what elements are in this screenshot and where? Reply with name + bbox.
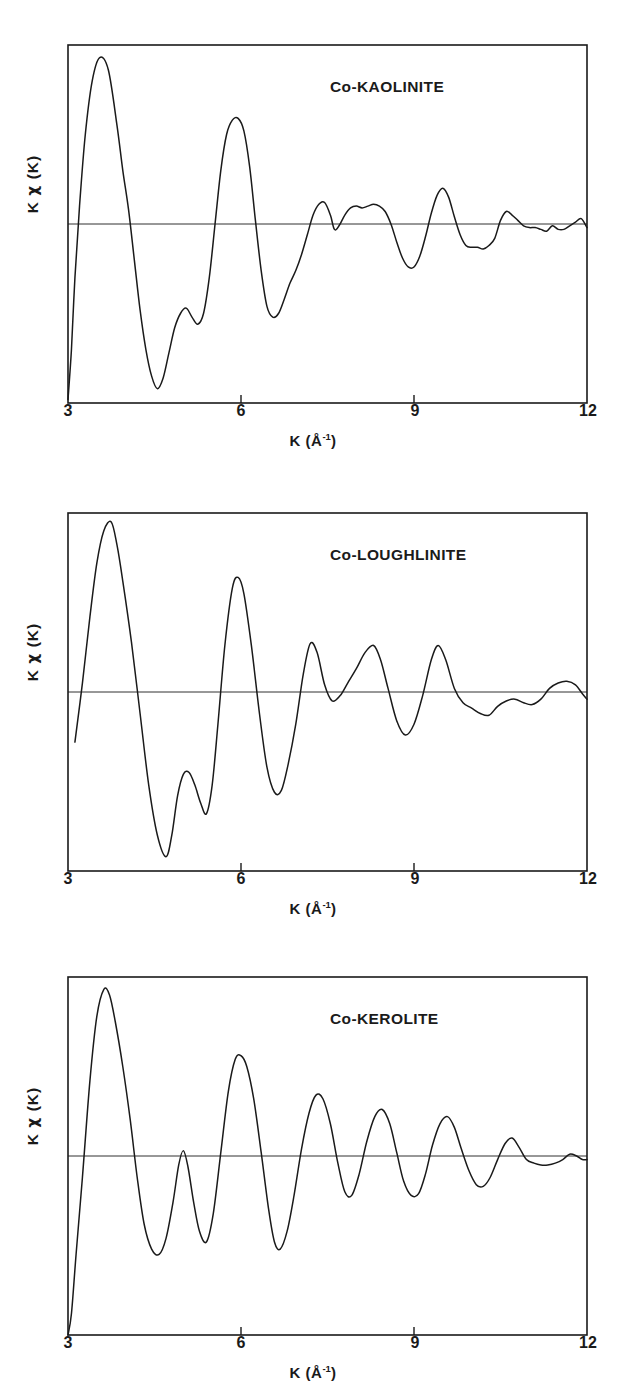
y-axis-label-chi: χ [24,185,42,196]
x-axis-label-exponent: -1 [322,899,330,910]
panel-title-kerolite: Co-KEROLITE [330,1010,439,1028]
x-tick-label-12: 12 [568,1334,608,1352]
x-axis-label-suffix: ) [331,900,337,917]
x-axis-label-prefix: K (Å [290,1364,323,1381]
x-axis-label-exponent: -1 [322,431,330,442]
x-tick-label-12: 12 [568,870,608,888]
data-series-line [68,57,587,399]
x-axis-label: K (Å-1) [0,431,626,449]
x-axis-label: K (Å-1) [0,899,626,917]
x-tick-label-3: 3 [48,870,88,888]
x-tick-label-3: 3 [48,402,88,420]
plot-svg-kerolite [0,932,626,1398]
chart-panel-kaolinite: Co-KAOLINITE K χ (K) K (Å-1) 3 6 9 12 [0,0,626,466]
x-axis-label-prefix: K (Å [290,900,323,917]
x-tick-label-9: 9 [395,402,435,420]
y-axis-label: K χ (K) [24,124,42,244]
x-tick-label-12: 12 [568,402,608,420]
x-axis-label-suffix: ) [331,1364,337,1381]
y-axis-label-paren: (K) [24,623,41,648]
y-axis-label-paren: (K) [24,1087,41,1112]
y-axis-label-k: K [24,669,41,681]
plot-svg-loughlinite [0,468,626,934]
data-series-line [75,521,587,856]
x-axis-label-prefix: K (Å [290,432,323,449]
x-tick-label-9: 9 [395,1334,435,1352]
data-series-line [68,988,587,1335]
exafs-figure: Co-KAOLINITE K χ (K) K (Å-1) 3 6 9 12 Co… [0,0,626,1399]
y-axis-label: K χ (K) [24,592,42,712]
y-axis-label-paren: (K) [24,155,41,180]
x-axis-label-suffix: ) [331,432,337,449]
x-tick-label-3: 3 [48,1334,88,1352]
y-axis-label-k: K [24,1133,41,1145]
panel-title-loughlinite: Co-LOUGHLINITE [330,546,466,564]
x-tick-label-6: 6 [221,1334,261,1352]
plot-svg-kaolinite [0,0,626,466]
y-axis-label-chi: χ [24,653,42,664]
y-axis-label-chi: χ [24,1117,42,1128]
x-axis-label: K (Å-1) [0,1363,626,1381]
y-axis-label-k: K [24,201,41,213]
x-tick-label-6: 6 [221,402,261,420]
x-axis-label-exponent: -1 [322,1363,330,1374]
chart-panel-kerolite: Co-KEROLITE K χ (K) K (Å-1) 3 6 9 12 [0,932,626,1398]
panel-title-kaolinite: Co-KAOLINITE [330,78,444,96]
y-axis-label: K χ (K) [24,1056,42,1176]
x-tick-label-9: 9 [395,870,435,888]
chart-panel-loughlinite: Co-LOUGHLINITE K χ (K) K (Å-1) 3 6 9 12 [0,468,626,934]
x-tick-label-6: 6 [221,870,261,888]
